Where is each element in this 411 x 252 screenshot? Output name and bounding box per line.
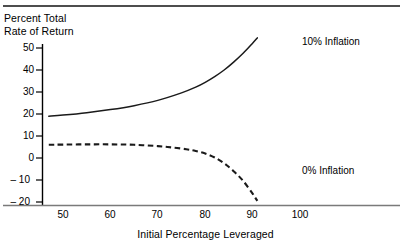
- y-tick-label-10: 10: [8, 130, 34, 141]
- x-tick-label-50: 50: [48, 209, 78, 220]
- y-tick-label-50: 50: [8, 42, 34, 53]
- series-line-0-percent-inflation: [49, 144, 258, 201]
- series-label-0-percent-inflation: 0% Inflation: [302, 165, 354, 176]
- chart-figure: Percent Total Rate of Return 50 40 30 20…: [0, 0, 411, 252]
- y-tick-label-minus20: – 20: [4, 196, 30, 207]
- y-tick-label-30: 30: [8, 86, 34, 97]
- x-tick-label-70: 70: [142, 209, 172, 220]
- x-tick-label-100: 100: [285, 209, 315, 220]
- series-line-10-percent-inflation: [49, 38, 258, 116]
- y-tick-label-40: 40: [8, 64, 34, 75]
- x-tick-label-80: 80: [190, 209, 220, 220]
- y-tick-label-0: 0: [8, 152, 34, 163]
- x-tick-label-90: 90: [237, 209, 267, 220]
- y-tick-label-minus10: – 10: [4, 174, 30, 185]
- series-label-10-percent-inflation: 10% Inflation: [302, 36, 360, 47]
- x-tick-label-60: 60: [95, 209, 125, 220]
- x-axis-title: Initial Percentage Leveraged: [0, 228, 411, 240]
- y-tick-label-20: 20: [8, 108, 34, 119]
